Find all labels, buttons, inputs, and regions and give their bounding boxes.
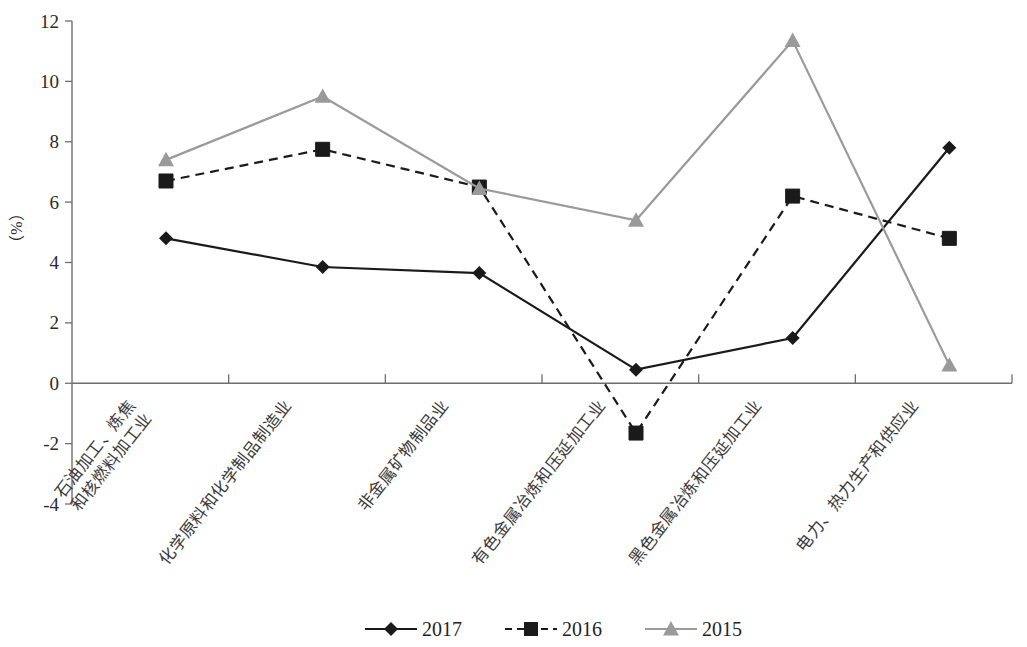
y-tick-label: -4	[43, 494, 59, 515]
data-point-2017-0	[159, 231, 173, 245]
category-label-3: 有色金属冶炼和压延加工业	[469, 396, 610, 568]
category-label-line: 黑色金属冶炼和压延加工业	[625, 396, 766, 568]
y-tick-label: 10	[40, 71, 59, 92]
data-point-2016-1	[316, 142, 330, 156]
category-label-4: 黑色金属冶炼和压延加工业	[625, 396, 766, 568]
legend-item-2015[interactable]: 2015	[645, 618, 742, 640]
legend-label-2016: 2016	[562, 618, 602, 640]
data-point-2015-1	[315, 88, 331, 102]
category-label-5: 电力、热力生产和供应业	[792, 396, 922, 555]
data-series-group	[158, 33, 957, 440]
data-point-2017-2	[472, 266, 486, 280]
category-label-1: 化学原料和化学制品制造业	[155, 396, 296, 568]
series-2017	[159, 141, 956, 377]
series-line-2017	[166, 148, 949, 370]
legend-label-2015: 2015	[702, 618, 742, 640]
data-point-2016-5	[942, 231, 956, 245]
y-tick-label: 0	[50, 373, 60, 394]
y-axis-title: （%）	[8, 205, 25, 250]
category-label-line: 有色金属冶炼和压延加工业	[469, 396, 610, 568]
series-2016	[159, 142, 956, 440]
y-axis: 121086420-2-4	[40, 11, 72, 515]
y-axis-title-text: （%）	[8, 205, 25, 250]
legend-marker-diamond-icon	[384, 622, 398, 636]
line-chart: 121086420-2-4 石油加工、炼焦和核燃料加工业化学原料和化学制品制造业…	[0, 0, 1027, 647]
data-point-2016-3	[629, 426, 643, 440]
y-tick-label: -2	[43, 433, 59, 454]
y-tick-label: 12	[40, 11, 59, 32]
series-line-2015	[166, 41, 949, 366]
y-tick-label: 8	[50, 131, 60, 152]
data-point-2016-0	[159, 174, 173, 188]
category-label-line: 电力、热力生产和供应业	[792, 396, 922, 555]
data-point-2017-3	[629, 363, 643, 377]
chart-legend: 201720162015	[365, 618, 742, 640]
legend-item-2017[interactable]: 2017	[365, 618, 462, 640]
x-axis	[72, 374, 1012, 383]
category-label-line: 化学原料和化学制品制造业	[155, 396, 296, 568]
category-label-2: 非金属矿物制品业	[354, 396, 453, 515]
data-point-2015-4	[785, 33, 801, 47]
data-point-2016-4	[786, 189, 800, 203]
legend-item-2016[interactable]: 2016	[505, 618, 602, 640]
data-point-2017-1	[316, 260, 330, 274]
y-tick-label: 2	[50, 312, 60, 333]
legend-label-2017: 2017	[422, 618, 462, 640]
category-label-line: 非金属矿物制品业	[354, 396, 453, 515]
legend-marker-square-icon	[524, 622, 538, 636]
data-point-2015-0	[158, 152, 174, 166]
data-point-2015-5	[941, 357, 957, 371]
y-tick-label: 6	[50, 192, 60, 213]
category-labels: 石油加工、炼焦和核燃料加工业化学原料和化学制品制造业非金属矿物制品业有色金属冶炼…	[51, 396, 923, 568]
y-tick-label: 4	[50, 252, 60, 273]
chart-container: 121086420-2-4 石油加工、炼焦和核燃料加工业化学原料和化学制品制造业…	[0, 0, 1027, 647]
category-label-0: 石油加工、炼焦和核燃料加工业	[51, 396, 156, 514]
